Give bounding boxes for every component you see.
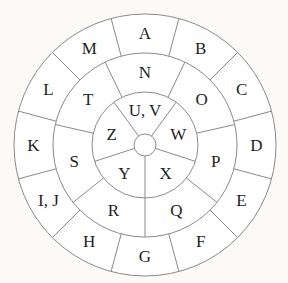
inner-segment-label: Z [107, 125, 117, 144]
outer-segment-label: C [236, 80, 247, 99]
outer-segment-label: G [139, 247, 151, 266]
outer-segment-label: F [196, 232, 205, 251]
outer-segment-label: M [82, 39, 97, 58]
inner-segment-label: U, V [129, 101, 162, 120]
outer-segment-label: B [195, 39, 206, 58]
outer-segment-label: K [27, 136, 40, 155]
middle-segment-label: R [108, 201, 120, 220]
outer-segment-label: A [139, 24, 152, 43]
outer-segment-label: I, J [38, 191, 59, 210]
middle-segment-label: O [196, 90, 208, 109]
inner-segment-label: Y [118, 164, 130, 183]
inner-segment-label: X [159, 164, 171, 183]
inner-segment-label: W [170, 125, 187, 144]
middle-segment-label: T [83, 90, 94, 109]
middle-segment-label: P [211, 152, 220, 171]
outer-segment-label: E [236, 191, 246, 210]
middle-segment-label: Q [170, 201, 182, 220]
outer-segment-label: D [250, 136, 262, 155]
outer-segment-label: H [83, 232, 95, 251]
outer-segment-label: L [43, 80, 53, 99]
center-hub [134, 134, 156, 156]
middle-segment-label: N [139, 63, 151, 82]
letter-wheel-diagram: ABCDEFGHI, JKLMNOPQRSTU, VWXYZ [0, 0, 288, 283]
middle-segment-label: S [70, 152, 79, 171]
